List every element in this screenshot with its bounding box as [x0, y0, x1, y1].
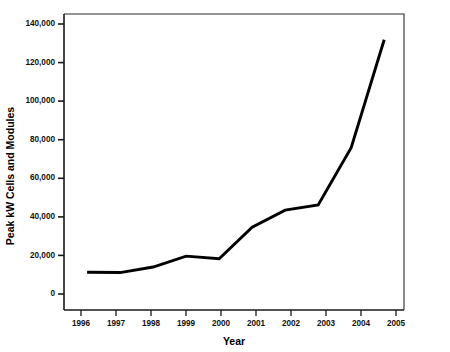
x-tick-label: 1999 — [177, 319, 196, 328]
x-tick-label: 2002 — [282, 319, 301, 328]
x-tick-label: 2005 — [387, 319, 406, 328]
x-tick-label: 1998 — [142, 319, 161, 328]
y-axis-title: Peak kW Cells and Modules — [4, 107, 16, 245]
line-chart: 0 20,000 40,000 60,000 80,000 100,000 12… — [0, 0, 450, 352]
x-tick-label: 2000 — [212, 319, 231, 328]
chart-canvas: 0 20,000 40,000 60,000 80,000 100,000 12… — [0, 0, 450, 352]
x-axis-ticks — [81, 310, 396, 316]
plot-frame — [64, 14, 404, 310]
y-tick-label: 80,000 — [30, 135, 55, 144]
y-tick-label: 0 — [50, 289, 55, 298]
y-axis-ticks — [58, 24, 64, 294]
x-tick-label: 1996 — [72, 319, 91, 328]
x-axis-title: Year — [223, 335, 245, 347]
y-tick-label: 140,000 — [25, 19, 55, 28]
x-tick-label: 2004 — [352, 319, 371, 328]
x-tick-label: 2001 — [247, 319, 266, 328]
y-tick-label: 20,000 — [30, 251, 55, 260]
data-series-line — [87, 40, 384, 273]
y-tick-label: 100,000 — [25, 96, 55, 105]
y-axis-tick-labels: 0 20,000 40,000 60,000 80,000 100,000 12… — [25, 19, 55, 298]
x-tick-label: 1997 — [107, 319, 126, 328]
x-axis-tick-labels: 1996 1997 1998 1999 2000 2001 2002 2003 … — [72, 319, 406, 328]
y-tick-label: 40,000 — [30, 212, 55, 221]
x-tick-label: 2003 — [317, 319, 336, 328]
y-tick-label: 60,000 — [30, 173, 55, 182]
y-tick-label: 120,000 — [25, 58, 55, 67]
